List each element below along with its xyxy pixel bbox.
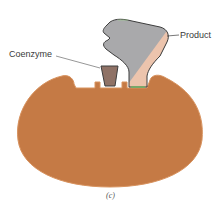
coenzyme-leader-line xyxy=(56,56,100,68)
product-label: Product xyxy=(180,30,211,40)
coenzyme-label: Coenzyme xyxy=(9,49,52,59)
enzyme-body xyxy=(18,75,203,187)
figure-caption: (c) xyxy=(106,191,115,200)
product-leader-line xyxy=(167,35,179,36)
coenzyme-shape xyxy=(101,66,118,86)
enzyme-diagram: Coenzyme Product (c) xyxy=(0,0,224,203)
